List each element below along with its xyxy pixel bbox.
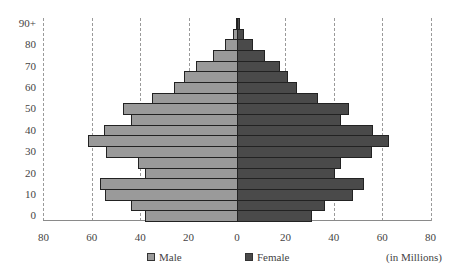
x-tick-label: 40	[125, 231, 155, 243]
x-tick-label: 0	[222, 231, 252, 243]
x-tick-label: 20	[270, 231, 300, 243]
legend-item-female: Female	[245, 251, 289, 263]
gridline	[92, 18, 93, 221]
units-note: (in Millions)	[386, 251, 442, 263]
population-pyramid-chart: 90+8070605040302010080604020020406080	[0, 0, 453, 279]
gridline	[382, 18, 383, 221]
legend-item-male: Male	[147, 251, 182, 263]
x-tick-label: 60	[77, 231, 107, 243]
y-tick-label: 30	[12, 145, 36, 157]
x-tick-label: 60	[367, 231, 397, 243]
y-tick-label: 50	[12, 102, 36, 114]
legend-female-label: Female	[257, 251, 289, 263]
y-tick-label: 70	[12, 60, 36, 72]
y-tick-label: 60	[12, 81, 36, 93]
y-tick-label: 40	[12, 124, 36, 136]
y-tick-label: 80	[12, 38, 36, 50]
y-tick-label: 90+	[12, 17, 36, 29]
x-tick-label: 80	[416, 231, 446, 243]
x-tick-label: 80	[28, 231, 58, 243]
units-label: (in Millions)	[386, 251, 442, 263]
x-tick-label: 40	[319, 231, 349, 243]
gridline	[43, 18, 44, 221]
legend-male-label: Male	[159, 251, 182, 263]
y-tick-label: 0	[12, 209, 36, 221]
y-tick-label: 10	[12, 188, 36, 200]
male-bar	[145, 210, 238, 222]
female-bar	[237, 210, 312, 222]
y-tick-label: 20	[12, 167, 36, 179]
female-swatch-icon	[245, 253, 253, 261]
x-tick-label: 20	[174, 231, 204, 243]
male-swatch-icon	[147, 253, 155, 261]
gridline	[431, 18, 432, 221]
